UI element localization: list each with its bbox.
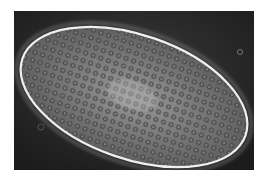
micrograph xyxy=(14,11,254,170)
cell-illustration xyxy=(14,11,254,170)
